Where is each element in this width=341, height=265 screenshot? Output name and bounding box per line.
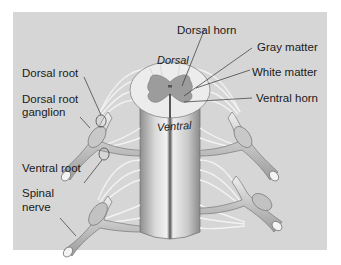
spinal-cord-cross-section bbox=[130, 62, 210, 118]
label-white-matter: White matter bbox=[252, 66, 317, 79]
label-gray-matter: Gray matter bbox=[257, 41, 318, 54]
label-ventral-orientation: Ventral bbox=[157, 119, 192, 133]
label-dorsal-horn: Dorsal horn bbox=[177, 24, 236, 37]
label-dorsal-root-ganglion-line1: Dorsal root bbox=[22, 93, 78, 106]
label-ventral-root: Ventral root bbox=[22, 162, 81, 175]
spinal-cord-illustration bbox=[0, 0, 341, 265]
label-dorsal-root-ganglion-line2: ganglion bbox=[22, 106, 65, 119]
label-spinal-nerve-line1: Spinal bbox=[22, 187, 54, 200]
right-upper-spinal-nerve bbox=[200, 112, 281, 183]
left-lower-spinal-nerve bbox=[61, 196, 140, 259]
label-spinal-nerve-line2: nerve bbox=[22, 201, 51, 214]
label-ventral-horn: Ventral horn bbox=[256, 92, 318, 105]
label-dorsal-orientation: Dorsal bbox=[157, 54, 189, 66]
label-dorsal-root: Dorsal root bbox=[22, 67, 78, 80]
